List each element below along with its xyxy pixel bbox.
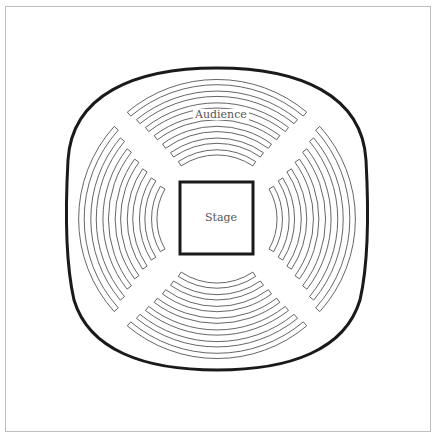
seating-row (154, 298, 280, 323)
seating-row (163, 290, 272, 312)
seating-row (178, 272, 255, 288)
seating-section-left (79, 126, 165, 311)
seating-row (316, 126, 356, 311)
seating-row (91, 138, 125, 300)
seating-row (127, 322, 306, 359)
stage-label: Stage (203, 212, 239, 223)
diagram-canvas: Audience Stage (0, 0, 435, 441)
seating-row (171, 281, 264, 300)
seating-row (171, 138, 264, 157)
seating-section-top (127, 79, 306, 165)
seating-row (310, 138, 344, 300)
seating-row (287, 169, 307, 269)
seating-row (278, 178, 294, 260)
seating-row (139, 178, 155, 260)
seating-row (163, 126, 272, 148)
seating-row (79, 126, 119, 311)
seating-section-bottom (127, 272, 306, 358)
seating-row (269, 186, 282, 251)
seating-row (127, 169, 147, 269)
audience-label: Audience (193, 109, 249, 120)
seating-row (178, 150, 255, 166)
seating-section-right (269, 126, 355, 311)
seating-row (137, 314, 298, 347)
seating-row (152, 186, 165, 251)
